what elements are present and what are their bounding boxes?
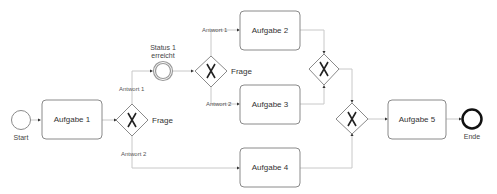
gateway-2[interactable] [195, 56, 227, 87]
task-5-label: Aufgabe 5 [388, 115, 446, 124]
start-event[interactable] [12, 111, 31, 130]
flow-label-g2-answer2: Antwort 2 [206, 101, 231, 107]
task-1-label: Aufgabe 1 [42, 115, 102, 124]
start-event-label: Start [7, 134, 35, 141]
task-2-label: Aufgabe 2 [240, 26, 300, 35]
gateway-2-label: Frage [231, 67, 252, 76]
flow-label-g1-answer1: Antwort 1 [119, 86, 144, 92]
gateway-1-label: Frage [152, 116, 173, 125]
intermediate-event[interactable] [154, 62, 173, 81]
task-4-label: Aufgabe 4 [240, 163, 300, 172]
gateway-3-merge[interactable] [309, 54, 339, 85]
task-3-label: Aufgabe 3 [240, 100, 300, 109]
gateway-4-merge[interactable] [336, 103, 368, 134]
flow-label-g1-answer2: Antwort 2 [121, 151, 146, 157]
intermediate-event-label-1: Status 1 [145, 44, 181, 51]
flow-label-g2-answer1: Antwort 1 [202, 27, 227, 33]
end-event[interactable] [463, 110, 482, 129]
gateway-1[interactable] [116, 104, 148, 136]
end-event-label: Ende [458, 133, 486, 140]
intermediate-event-label-2: erreicht [145, 52, 181, 59]
